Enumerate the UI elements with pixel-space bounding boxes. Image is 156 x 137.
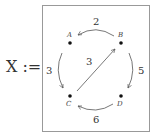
graph-diagram: A B C D 2 3 5 6 3 (0, 0, 156, 137)
edge-A-C (58, 53, 63, 88)
edge-B-D (128, 53, 133, 88)
node-label-B: B (117, 31, 123, 39)
node-A (68, 41, 72, 45)
edge-weight-B-A: 2 (93, 16, 99, 27)
edge-weight-C-B: 3 (86, 56, 92, 67)
edge-weight-D-C: 6 (93, 114, 99, 125)
edge-B-A (78, 30, 114, 36)
node-label-A: A (66, 31, 72, 39)
edge-D-C (78, 104, 113, 110)
edge-weight-B-D: 5 (138, 65, 144, 76)
node-label-C: C (66, 100, 72, 108)
node-B (119, 41, 123, 45)
edge-weight-A-C: 3 (46, 65, 52, 76)
edge-C-B (77, 49, 115, 91)
node-C (68, 94, 72, 98)
node-label-D: D (116, 100, 123, 108)
node-D (119, 94, 123, 98)
